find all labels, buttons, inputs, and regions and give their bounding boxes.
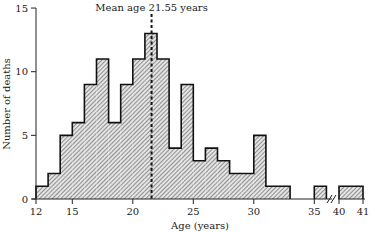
histogram-bin	[278, 186, 290, 199]
y-tick-label: 5	[22, 130, 28, 141]
histogram-bin	[205, 148, 217, 199]
y-axis-title: Number of deaths	[1, 58, 12, 150]
x-axis-title: Age (years)	[170, 220, 229, 231]
histogram-bin	[157, 59, 169, 199]
x-tick-label: 35	[308, 206, 321, 217]
histogram-bin	[121, 84, 133, 199]
x-tick-label: 30	[247, 206, 260, 217]
x-tick-label: 41	[357, 206, 370, 217]
histogram-bin	[48, 174, 60, 199]
y-tick-label: 0	[22, 194, 28, 205]
mean-label: Mean age 21.55 years	[95, 2, 207, 13]
histogram-chart: 0510151215202530354041Age (years)Number …	[0, 0, 375, 232]
y-tick-label: 15	[15, 3, 28, 14]
histogram-bin	[242, 174, 254, 199]
y-tick-label: 10	[15, 66, 28, 77]
histogram-bin	[60, 135, 72, 199]
x-tick-label: 20	[126, 206, 139, 217]
x-tick-label: 25	[187, 206, 200, 217]
histogram-bin	[339, 186, 363, 199]
histogram-bin	[169, 148, 181, 199]
histogram-bin	[230, 174, 242, 199]
histogram-bin	[84, 84, 96, 199]
x-tick-label: 15	[66, 206, 79, 217]
x-tick-label: 40	[333, 206, 346, 217]
histogram-bin	[36, 186, 48, 199]
histogram-bin	[133, 59, 145, 199]
histogram-bin	[314, 186, 326, 199]
histogram-bin	[266, 186, 278, 199]
histogram-bin	[109, 123, 121, 199]
histogram-bin	[97, 59, 109, 199]
histogram-bin	[72, 123, 84, 199]
histogram-bin	[218, 161, 230, 199]
x-tick-label: 12	[30, 206, 43, 217]
histogram-bin	[254, 135, 266, 199]
histogram-bin	[181, 84, 193, 199]
histogram-bin	[193, 161, 205, 199]
